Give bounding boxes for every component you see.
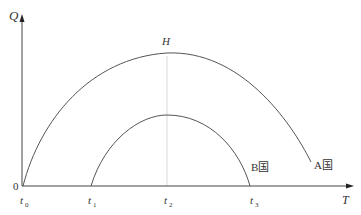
origin-label: 0 [13, 180, 19, 192]
svg-text:3: 3 [255, 201, 259, 209]
diagram-canvas: Q T 0 H A国 B国 t 0 t 1 t 2 t 3 [0, 0, 361, 215]
curve-b [91, 115, 250, 186]
x-axis-label: T [342, 193, 350, 207]
y-axis-arrow-icon [20, 14, 25, 22]
peak-label: H [161, 35, 171, 47]
curve-b-label: B国 [251, 161, 269, 173]
svg-text:t: t [88, 194, 92, 206]
tick-t2: t 2 [164, 194, 173, 209]
tick-t3: t 3 [250, 194, 259, 209]
svg-text:t: t [164, 194, 168, 206]
svg-text:t: t [250, 194, 254, 206]
curve-a-label: A国 [314, 159, 333, 171]
y-axis-label: Q [9, 8, 19, 23]
svg-text:2: 2 [169, 201, 173, 209]
svg-text:1: 1 [93, 201, 97, 209]
svg-text:0: 0 [25, 201, 29, 209]
svg-text:t: t [20, 194, 24, 206]
tick-t0: t 0 [20, 194, 29, 209]
tick-t1: t 1 [88, 194, 97, 209]
x-axis-arrow-icon [346, 184, 354, 189]
